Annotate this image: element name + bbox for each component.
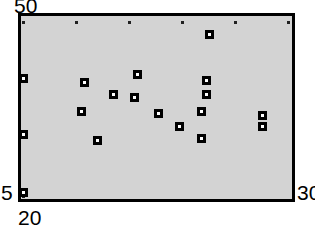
data-point-marker [133,70,142,79]
data-point-marker [93,136,102,145]
data-point-marker [175,122,184,131]
data-point-marker [258,111,267,120]
plot-frame [18,13,295,202]
y-axis-max-label: 50 [14,0,37,16]
data-point-marker [258,122,267,131]
x-axis-tick [128,21,131,24]
data-point-marker [19,188,28,197]
scatter-plot-screenshot: 50 5 20 30 [0,0,315,234]
data-point-marker [130,93,139,102]
x-axis-tick [75,21,78,24]
data-point-marker [154,109,163,118]
data-point-marker [197,107,206,116]
data-point-marker [205,30,214,39]
x-axis-tick [181,21,184,24]
data-point-marker [109,90,118,99]
data-point-marker [202,76,211,85]
y-axis-tick [22,21,25,24]
x-axis-tick [234,21,237,24]
data-point-marker [197,134,206,143]
data-point-marker [77,107,86,116]
data-point-marker [19,74,28,83]
x-axis-min-label: 20 [18,207,41,228]
x-axis-max-label: 30 [297,182,315,203]
y-axis-min-label: 5 [1,182,13,203]
data-point-marker [19,130,28,139]
x-axis-tick [287,21,290,24]
plot-area [21,16,292,199]
data-point-marker [202,90,211,99]
data-point-marker [80,78,89,87]
